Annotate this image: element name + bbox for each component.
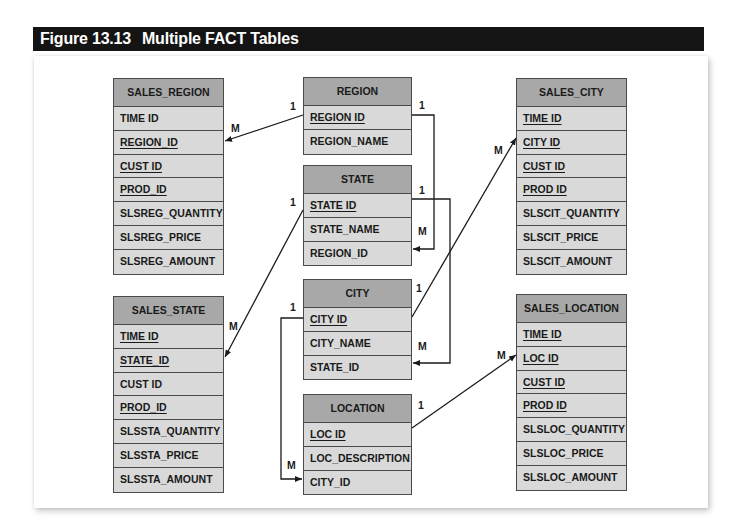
entity-header: SALES_STATE: [114, 297, 223, 325]
field-row: SLSREG_PRICE: [114, 226, 223, 250]
field-row: SLSLOC_QUANTITY: [517, 418, 626, 442]
field-row: REGION_ID: [304, 242, 411, 266]
cardinality-many: M: [418, 340, 427, 352]
entity-state: STATE STATE ID STATE_NAME REGION_ID: [303, 165, 412, 266]
field-row: REGION_NAME: [304, 130, 411, 154]
field-row: LOC ID: [517, 347, 626, 371]
cardinality-many: M: [418, 225, 427, 237]
field-row: CUST ID: [517, 371, 626, 395]
entity-header: SALES_LOCATION: [517, 295, 626, 323]
cardinality-many: M: [497, 349, 506, 361]
cardinality-many: M: [287, 459, 296, 471]
cardinality-one: 1: [419, 99, 425, 111]
field-row: REGION ID: [304, 106, 411, 130]
cardinality-one: 1: [290, 196, 296, 208]
entity-sales-state: SALES_STATE TIME ID STATE_ID CUST ID PRO…: [113, 296, 224, 493]
entity-sales-city: SALES_CITY TIME ID CITY ID CUST ID PROD …: [516, 78, 627, 275]
field-row: STATE ID: [304, 194, 411, 218]
field-row: SLSLOC_AMOUNT: [517, 466, 626, 490]
field-row: TIME ID: [114, 325, 223, 349]
field-row: SLSSTA_QUANTITY: [114, 420, 223, 444]
field-row: PROD ID: [517, 394, 626, 418]
field-row: CUST ID: [114, 373, 223, 397]
field-row: CUST ID: [517, 155, 626, 179]
entity-header: SALES_CITY: [517, 79, 626, 107]
field-row: CITY_ID: [304, 471, 411, 495]
field-row: PROD_ID: [114, 396, 223, 420]
cardinality-one: 1: [419, 184, 425, 196]
field-row: STATE_ID: [304, 356, 411, 380]
field-row: LOC_DESCRIPTION: [304, 447, 411, 471]
cardinality-one: 1: [416, 282, 422, 294]
field-row: STATE_NAME: [304, 218, 411, 242]
field-row: REGION_ID: [114, 131, 223, 155]
entity-header: CITY: [304, 280, 411, 308]
entity-region: REGION REGION ID REGION_NAME: [303, 77, 412, 155]
field-row: CITY ID: [517, 131, 626, 155]
cardinality-one: 1: [290, 301, 296, 313]
entity-header: LOCATION: [304, 395, 411, 423]
field-row: CITY ID: [304, 308, 411, 332]
field-row: SLSLOC_PRICE: [517, 442, 626, 466]
entity-header: SALES_REGION: [114, 79, 223, 107]
field-row: SLSCIT_PRICE: [517, 226, 626, 250]
figure-caption: Multiple FACT Tables: [142, 30, 299, 47]
field-row: CITY_NAME: [304, 332, 411, 356]
field-row: CUST ID: [114, 155, 223, 179]
cardinality-many: M: [231, 122, 240, 134]
field-row: PROD ID: [517, 178, 626, 202]
cardinality-one: 1: [290, 100, 296, 112]
field-row: PROD_ID: [114, 178, 223, 202]
entity-header: STATE: [304, 166, 411, 194]
figure-title-bar: Figure 13.13Multiple FACT Tables: [33, 27, 704, 51]
entity-location: LOCATION LOC ID LOC_DESCRIPTION CITY_ID: [303, 394, 412, 495]
entity-sales-location: SALES_LOCATION TIME ID LOC ID CUST ID PR…: [516, 294, 627, 491]
field-row: TIME ID: [114, 107, 223, 131]
field-row: SLSCIT_QUANTITY: [517, 202, 626, 226]
field-row: LOC ID: [304, 423, 411, 447]
field-row: SLSREG_AMOUNT: [114, 250, 223, 274]
field-row: TIME ID: [517, 107, 626, 131]
cardinality-one: 1: [418, 399, 424, 411]
field-row: STATE_ID: [114, 349, 223, 373]
field-row: SLSCIT_AMOUNT: [517, 250, 626, 274]
entity-city: CITY CITY ID CITY_NAME STATE_ID: [303, 279, 412, 380]
field-row: SLSREG_QUANTITY: [114, 202, 223, 226]
cardinality-many: M: [494, 144, 503, 156]
field-row: TIME ID: [517, 323, 626, 347]
field-row: SLSSTA_AMOUNT: [114, 468, 223, 492]
field-row: SLSSTA_PRICE: [114, 444, 223, 468]
entity-sales-region: SALES_REGION TIME ID REGION_ID CUST ID P…: [113, 78, 224, 275]
cardinality-many: M: [229, 320, 238, 332]
figure-number: Figure 13.13: [40, 30, 131, 47]
entity-header: REGION: [304, 78, 411, 106]
